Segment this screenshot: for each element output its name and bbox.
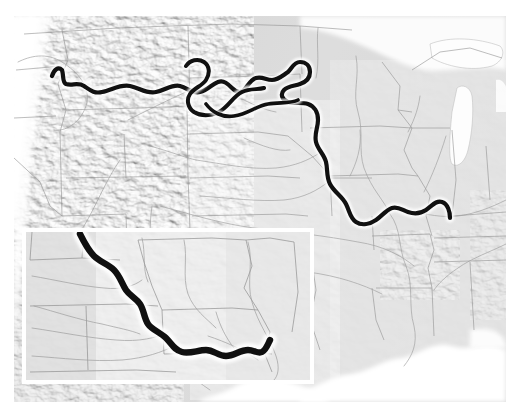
detail-inset-clip bbox=[26, 232, 310, 380]
terrain-appalachian-edge bbox=[470, 190, 506, 320]
map-viewport bbox=[0, 0, 522, 419]
detail-inset[interactable] bbox=[22, 228, 314, 384]
detail-inset-svg bbox=[26, 232, 310, 380]
terrain-ozarks bbox=[380, 230, 460, 300]
